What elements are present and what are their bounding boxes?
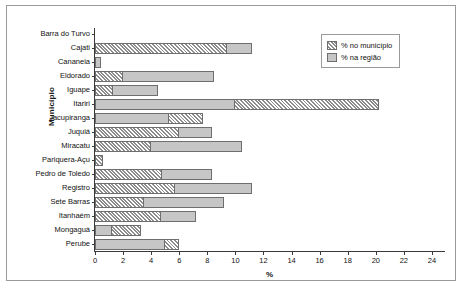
x-axis-tick-label: 16 [315,256,323,265]
bar-municipio [95,85,113,96]
bar-row: Mongaguá [95,224,445,238]
legend-item: % na região [327,51,392,63]
x-axis-title: % [94,270,445,279]
x-axis-tick [263,251,264,255]
bar-municipio [95,197,144,208]
x-axis-tick [404,251,405,255]
bar-municipio [95,71,123,82]
y-axis-tick [92,34,95,35]
x-axis-tick-label: 4 [149,256,153,265]
category-label: Perube [66,239,90,248]
category-label: Pedro de Toledo [36,169,91,178]
figure-frame: Município Barra do TurvoCajatiCananeiaEl… [6,5,456,281]
x-axis-tick [179,251,180,255]
bar-row: Pariquera-Açu [95,154,445,168]
x-axis-tick-label: 12 [259,256,267,265]
bar-regiao [95,225,112,236]
legend-label: % na região [341,53,381,62]
bar-row: Itanhaém [95,210,445,224]
bar-municipio [95,141,151,152]
bar-row: Itariri [95,98,445,112]
chart-legend: % no município% na região [321,34,400,68]
x-axis-tick-label: 22 [400,256,408,265]
x-axis-tick-label: 2 [121,256,125,265]
bar-municipio [95,43,227,54]
x-axis-tick-label: 6 [177,256,181,265]
category-label: Pariquera-Açu [42,155,90,164]
x-axis-tick [320,251,321,255]
bar-row: Pedro de Toledo [95,168,445,182]
category-label: Sete Barras [50,197,90,206]
legend-label: % no município [341,41,392,50]
x-axis-tick-label: 0 [93,256,97,265]
x-axis-tick [123,251,124,255]
legend-swatch-solid [327,53,337,62]
category-label: Jacupiranga [49,113,90,122]
legend-item: % no município [327,39,392,51]
bar-row: Sete Barras [95,196,445,210]
category-label: Mongaguá [55,225,90,234]
x-axis-tick [292,251,293,255]
bar-regiao [95,239,165,250]
category-label: Itariri [73,99,90,108]
bar-municipio [95,169,162,180]
bar-regiao [95,99,235,110]
category-label: Eldorado [60,71,90,80]
category-label: Juquiá [68,127,90,136]
bar-municipio [95,211,161,222]
category-label: Cajati [71,43,90,52]
bar-municipio [95,155,103,166]
bar-row: Juquiá [95,126,445,140]
x-axis-tick [348,251,349,255]
bar-row: Jacupiranga [95,112,445,126]
bar-row: Iguape [95,84,445,98]
category-label: Miracatu [61,141,90,150]
x-axis-tick [95,251,96,255]
category-label: Iguape [67,85,90,94]
x-axis-tick-label: 24 [428,256,436,265]
x-axis-tick-label: 14 [287,256,295,265]
x-axis-tick-label: 18 [344,256,352,265]
x-axis-tick-label: 20 [372,256,380,265]
bar-regiao [95,57,101,68]
category-label: Barra do Turvo [40,29,90,38]
x-axis-tick-label: 10 [231,256,239,265]
bar-row: Perube [95,238,445,252]
x-axis-tick [235,251,236,255]
bar-row: Miracatu [95,140,445,154]
category-label: Cananeia [58,57,90,66]
x-axis-tick [151,251,152,255]
x-axis-tick-label: 8 [205,256,209,265]
x-axis-tick [376,251,377,255]
bar-municipio [95,127,179,138]
bar-row: Registro [95,182,445,196]
bar-municipio [95,183,175,194]
bar-row: Eldorado [95,70,445,84]
category-label: Itanhaém [59,211,90,220]
bar-regiao [95,113,169,124]
x-axis-tick [432,251,433,255]
x-axis-tick [207,251,208,255]
y-axis-title: Município [47,57,56,157]
category-label: Registro [62,183,90,192]
legend-swatch-hatch [327,41,337,50]
